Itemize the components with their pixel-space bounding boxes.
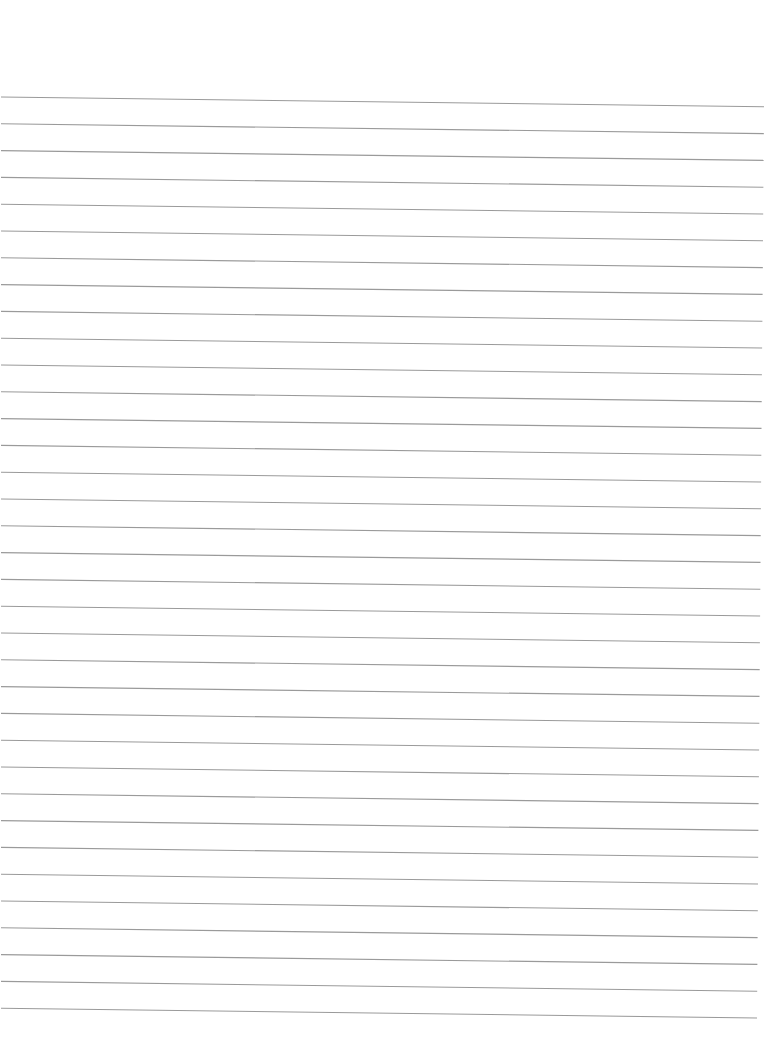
ruled-line bbox=[1, 526, 761, 536]
ruled-line bbox=[1, 97, 764, 107]
ruled-line bbox=[1, 499, 761, 509]
ruled-line bbox=[1, 1008, 757, 1018]
ruled-line bbox=[1, 847, 758, 857]
ruled-line bbox=[1, 901, 758, 911]
ruled-line bbox=[1, 713, 759, 723]
ruled-line bbox=[1, 579, 760, 589]
ruled-line bbox=[1, 204, 763, 214]
ruled-line bbox=[1, 955, 757, 965]
ruled-line bbox=[1, 258, 763, 268]
ruled-line bbox=[1, 794, 759, 804]
ruled-line bbox=[1, 928, 758, 938]
ruled-line bbox=[1, 472, 761, 482]
ruled-line bbox=[1, 606, 760, 616]
ruled-line bbox=[1, 124, 764, 134]
ruled-line bbox=[1, 660, 760, 670]
ruled-line bbox=[1, 419, 762, 429]
ruled-line bbox=[1, 553, 761, 563]
ruled-line bbox=[1, 231, 763, 241]
ruled-line bbox=[1, 338, 762, 348]
ruled-line bbox=[1, 392, 762, 402]
ruled-lines bbox=[0, 0, 767, 1058]
ruled-line bbox=[1, 311, 762, 321]
ruled-line bbox=[1, 177, 763, 187]
ruled-line bbox=[1, 981, 757, 991]
ruled-line bbox=[1, 633, 760, 643]
ruled-line bbox=[1, 687, 760, 697]
ruled-line bbox=[1, 767, 759, 777]
ruled-line bbox=[1, 365, 762, 375]
ruled-line bbox=[1, 821, 758, 831]
ruled-line bbox=[1, 740, 759, 750]
ruled-line bbox=[1, 285, 763, 295]
ruled-line bbox=[1, 151, 764, 161]
ruled-line bbox=[1, 874, 758, 884]
lined-paper-sheet bbox=[0, 0, 767, 1058]
ruled-line bbox=[1, 445, 761, 455]
